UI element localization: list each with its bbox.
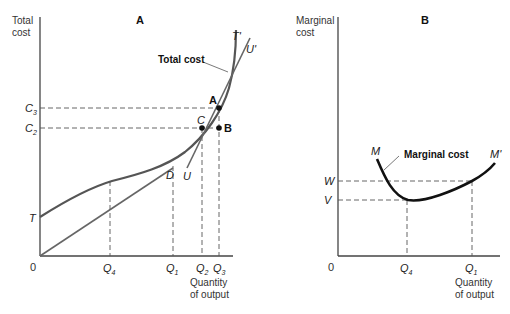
marginal-cost-curve xyxy=(377,159,495,200)
total-cost-curve xyxy=(40,30,236,217)
panel-b-y-label-2: cost xyxy=(296,27,315,38)
panel-a-origin: 0 xyxy=(30,261,36,273)
panel-b-x-label-1: Quantity xyxy=(455,277,492,288)
label-a: A xyxy=(209,94,217,106)
label-m: M xyxy=(371,145,381,157)
panel-a-y-label-1: Total xyxy=(12,15,33,26)
point-b xyxy=(216,125,222,131)
tick-c2: C2 xyxy=(25,122,37,136)
total-cost-label: Total cost xyxy=(158,54,205,65)
tick-b-q1: Q1 xyxy=(465,262,478,276)
label-d: D xyxy=(166,169,174,181)
label-m-prime: M' xyxy=(490,148,502,160)
tick-q1: Q1 xyxy=(166,262,179,276)
panel-b-title: B xyxy=(421,14,429,26)
label-u-prime: U' xyxy=(246,43,257,55)
panel-a-title: A xyxy=(136,14,144,26)
tick-v: V xyxy=(324,194,333,206)
tick-w: W xyxy=(324,175,336,187)
label-t: T xyxy=(29,212,37,224)
panel-b: Marginal cost B Marginal cost M M' W V 0… xyxy=(296,14,502,300)
panel-b-x-label-2: of output xyxy=(455,289,494,300)
panel-a: Total cost A Total cost T' U' A xyxy=(12,14,257,300)
panel-a-guides xyxy=(40,108,219,256)
label-c: C xyxy=(197,114,205,126)
panel-b-guides xyxy=(338,181,472,256)
label-b: B xyxy=(224,122,232,134)
total-cost-pointer xyxy=(203,62,228,72)
point-a xyxy=(216,105,222,111)
ray-from-origin xyxy=(40,168,173,256)
label-t-prime: T' xyxy=(232,30,242,42)
panel-a-y-label-2: cost xyxy=(12,27,31,38)
cost-diagram: Total cost A Total cost T' U' A xyxy=(0,0,510,314)
tick-q2: Q2 xyxy=(196,262,209,276)
tick-q4: Q4 xyxy=(103,262,116,276)
panel-b-origin: 0 xyxy=(328,261,334,273)
marginal-cost-label: Marginal cost xyxy=(404,149,469,160)
tick-q3: Q3 xyxy=(213,262,226,276)
marginal-cost-pointer xyxy=(384,156,399,170)
tick-c3: C3 xyxy=(25,102,37,116)
panel-a-x-label-2: of output xyxy=(190,289,229,300)
tick-b-q4: Q4 xyxy=(400,262,413,276)
panel-b-y-label-1: Marginal xyxy=(296,15,334,26)
panel-a-x-label-1: Quantity xyxy=(190,277,227,288)
point-c xyxy=(199,125,205,131)
label-u: U xyxy=(183,170,191,182)
